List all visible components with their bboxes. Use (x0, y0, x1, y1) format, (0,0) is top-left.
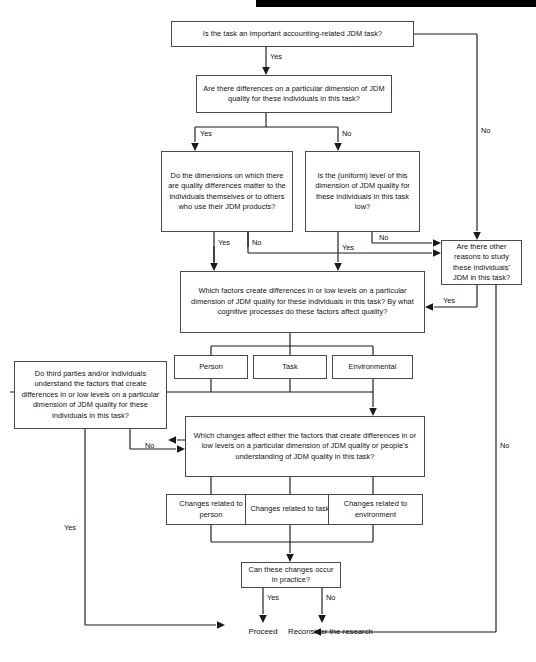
node-text: Are there differences on a particular di… (200, 84, 388, 105)
node-text: Person (199, 362, 223, 372)
node-factor-person[interactable]: Person (174, 355, 248, 379)
node-q-occur-in-practice[interactable]: Can these changes occur in practice? (241, 562, 341, 588)
node-text: Changes related to environment (332, 499, 419, 520)
node-q-dimensions-matter[interactable]: Do the dimensions on which there are qua… (161, 151, 293, 232)
edge-label-practice-no: No (326, 593, 335, 602)
node-text: Do the dimensions on which there are qua… (165, 171, 289, 213)
node-text: Is the (uniform) level of this dimension… (309, 171, 416, 213)
edge-label-third-parties-no: No (145, 441, 154, 450)
flowchart-canvas: Is the task an important accounting-rela… (0, 0, 536, 662)
node-factor-environmental[interactable]: Environmental (332, 355, 413, 379)
edge-label-dimensions-yes: Yes (218, 238, 230, 247)
node-text: Can these changes occur in practice? (245, 565, 337, 586)
node-text: Which factors create differences in or l… (184, 286, 421, 317)
node-q-uniform-low[interactable]: Is the (uniform) level of this dimension… (305, 151, 420, 232)
edge-label-third-parties-yes: Yes (64, 523, 76, 532)
edge-label-other-reasons-yes: Yes (443, 296, 455, 305)
terminal-reconsider-line2: the research (330, 627, 373, 636)
edge-label-dimensions-no: No (252, 238, 261, 247)
node-factor-task[interactable]: Task (253, 355, 327, 379)
node-changes-task[interactable]: Changes related to task (245, 494, 335, 525)
node-text: Changes related to person (170, 499, 252, 520)
edge-label-uniform-no: No (379, 233, 388, 242)
node-q-which-factors[interactable]: Which factors create differences in or l… (180, 271, 425, 333)
edge-label-important-no: No (481, 126, 490, 135)
node-q-other-reasons[interactable]: Are there other reasons to study these i… (441, 240, 522, 285)
edge-label-practice-yes: Yes (267, 593, 279, 602)
node-changes-person[interactable]: Changes related to person (166, 494, 256, 525)
edge-label-differences-no: No (342, 129, 351, 138)
node-changes-environment[interactable]: Changes related to environment (328, 494, 423, 525)
node-text: Environmental (349, 362, 397, 372)
node-q-third-parties[interactable]: Do third parties and/or individuals unde… (14, 361, 167, 429)
node-q-important-task[interactable]: Is the task an important accounting-rela… (171, 21, 414, 47)
node-q-differences[interactable]: Are there differences on a particular di… (196, 75, 392, 113)
node-text: Changes related to task (250, 504, 329, 514)
edge-label-differences-yes: Yes (200, 129, 212, 138)
terminal-proceed: Proceed (231, 627, 295, 637)
node-q-which-changes[interactable]: Which changes affect either the factors … (185, 416, 425, 477)
node-text: Which changes affect either the factors … (189, 431, 421, 462)
terminal-reconsider-line1: Reconsider (288, 627, 327, 636)
terminal-reconsider: Reconsider the research (288, 627, 358, 637)
edge-label-important-yes: Yes (270, 52, 282, 61)
edge-label-other-reasons-no: No (500, 441, 509, 450)
node-text: Do third parties and/or individuals unde… (18, 369, 163, 421)
edge-label-uniform-yes: Yes (342, 243, 354, 252)
terminal-proceed-label: Proceed (248, 627, 277, 636)
node-text: Task (282, 362, 297, 372)
node-text: Are there other reasons to study these i… (445, 242, 518, 284)
node-text: Is the task an important accounting-rela… (203, 29, 382, 39)
